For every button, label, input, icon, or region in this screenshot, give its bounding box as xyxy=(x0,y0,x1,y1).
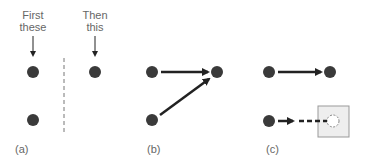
dot-c-bottom-left xyxy=(263,115,275,127)
caption-then-this: Then this xyxy=(75,9,115,33)
panel-c xyxy=(263,66,349,137)
caption-first-these: First these xyxy=(13,9,53,33)
panel-a xyxy=(27,36,101,135)
dot-c-top-left xyxy=(263,66,275,78)
panel-c-label: (c) xyxy=(266,143,279,155)
diagram-graphics xyxy=(0,0,366,162)
panel-a-label: (a) xyxy=(15,143,28,155)
dot-b-target xyxy=(211,66,223,78)
caption-these: these xyxy=(13,21,53,33)
caption-this: this xyxy=(75,21,115,33)
dot-a-bottom-left xyxy=(27,114,39,126)
panel-b-label: (b) xyxy=(147,143,160,155)
arrow-b-diagonal xyxy=(160,79,209,115)
panel-b xyxy=(146,66,223,126)
dot-b-bottom-left xyxy=(146,114,158,126)
dashed-circle-c xyxy=(327,115,339,127)
dot-a-top-left xyxy=(27,66,39,78)
dot-a-then xyxy=(89,66,101,78)
dot-c-top-right xyxy=(324,66,336,78)
caption-first: First xyxy=(13,9,53,21)
dot-b-top-left xyxy=(146,66,158,78)
caption-then: Then xyxy=(75,9,115,21)
diagram-canvas: First these Then this (a) (b) (c) xyxy=(0,0,366,162)
